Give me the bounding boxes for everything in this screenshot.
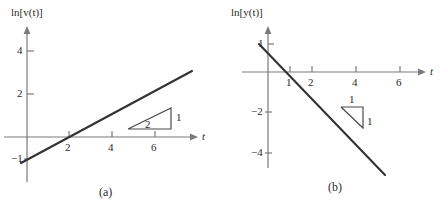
panel-b-x-ticklabel-4: 4 bbox=[352, 77, 358, 88]
panel-a-x-ticklabel-6: 6 bbox=[151, 142, 157, 153]
panel-b: ln[y(t)] t 1 −2 −4 1 2 4 6 1 1 (b) bbox=[222, 0, 443, 212]
panel-b-x-ticklabel-6: 6 bbox=[396, 77, 402, 88]
panel-b-triangle-fall-label: 1 bbox=[367, 116, 373, 127]
panel-b-x-axis-arrow bbox=[418, 69, 426, 76]
panel-b-y-axis-label: ln[y(t)] bbox=[231, 7, 263, 18]
panel-b-data-line bbox=[259, 44, 385, 175]
panel-a-y-axis-arrow bbox=[24, 26, 31, 34]
panel-a: ln[v(t)] t 4 2 −1 2 4 6 2 1 (a) bbox=[0, 0, 222, 212]
panel-a-x-ticklabel-4: 4 bbox=[108, 142, 114, 153]
panel-a-y-axis-label: ln[v(t)] bbox=[11, 7, 43, 18]
panel-b-y-axis-arrow bbox=[265, 26, 272, 34]
panel-a-x-axis-arrow bbox=[190, 134, 198, 141]
panel-a-caption: (a) bbox=[99, 185, 112, 200]
panel-b-y-ticklabel-1: 1 bbox=[258, 38, 264, 49]
panel-a-y-ticklabel-4: 4 bbox=[17, 45, 23, 56]
panel-a-data-line bbox=[21, 71, 192, 163]
panel-a-triangle-run-label: 2 bbox=[145, 119, 151, 130]
panel-b-slope-triangle bbox=[341, 107, 363, 128]
panel-b-y-ticklabel-neg2: −2 bbox=[251, 106, 263, 117]
panel-a-triangle-rise-label: 1 bbox=[176, 112, 182, 123]
panel-b-triangle-run-label: 1 bbox=[349, 94, 355, 105]
panel-b-y-ticklabel-neg4: −4 bbox=[251, 147, 263, 158]
panel-b-x-axis-label: t bbox=[430, 66, 433, 77]
panel-a-y-ticklabel-neg1: −1 bbox=[11, 153, 23, 164]
panel-b-caption: (b) bbox=[328, 180, 342, 195]
figure-container: ln[v(t)] t 4 2 −1 2 4 6 2 1 (a) bbox=[0, 0, 443, 212]
panel-a-x-ticklabel-2: 2 bbox=[65, 142, 71, 153]
panel-a-plot bbox=[0, 0, 222, 212]
panel-b-x-ticklabel-2: 2 bbox=[308, 77, 314, 88]
panel-b-x-ticklabel-1: 1 bbox=[286, 77, 292, 88]
panel-a-y-ticklabel-2: 2 bbox=[17, 88, 23, 99]
panel-a-x-axis-label: t bbox=[202, 131, 205, 142]
